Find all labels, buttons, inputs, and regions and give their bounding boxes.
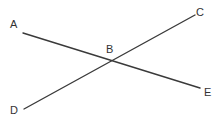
point-label-b: B [106, 43, 113, 55]
point-label-a: A [10, 18, 18, 30]
point-label-c: C [196, 6, 204, 18]
diagram-canvas: A B C D E [0, 0, 220, 122]
diagram-svg: A B C D E [0, 0, 220, 122]
point-label-d: D [10, 104, 18, 116]
point-label-e: E [204, 86, 211, 98]
line-segment-dc [24, 15, 195, 109]
